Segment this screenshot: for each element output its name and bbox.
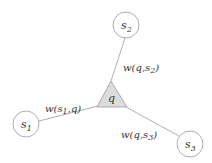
node-s2: s2 [113,12,139,38]
node-q-label: q [108,92,115,105]
edge-label-q-s2: w(q,s2) [123,62,159,75]
node-s1-sub: 1 [27,124,32,133]
network-diagram: q s2 s1 s3 w(q,s2) w(s1,q) w(q,s3) [0,0,212,163]
node-s1: s1 [13,111,39,137]
node-s3-sub: 3 [191,144,196,153]
edge-label-s1-q: w(s1,q) [45,103,81,116]
node-s2-sub: 2 [126,25,132,34]
edge-label-q-s3: w(q,s3) [121,129,157,142]
node-q: q [97,81,127,107]
edge-q-s2 [111,38,125,81]
node-s3: s3 [177,131,203,157]
